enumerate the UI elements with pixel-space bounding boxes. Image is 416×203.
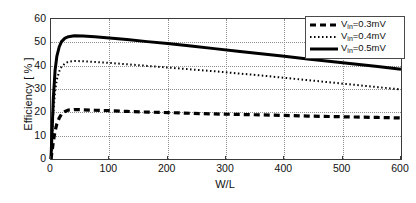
x-tick-label: 0 — [30, 162, 70, 174]
y-tick-label: 20 — [4, 105, 46, 117]
y-tick-label: 10 — [4, 129, 46, 141]
x-tick-mark — [342, 156, 343, 160]
x-tick-mark — [225, 156, 226, 160]
x-tick-label: 200 — [147, 162, 187, 174]
x-tick-mark — [167, 156, 168, 160]
y-tick-label: 30 — [4, 82, 46, 94]
legend-label: Vin=0.5mV — [341, 43, 386, 56]
efficiency-vs-wl-chart: Efficiency [ % ] 0102030405060 010020030… — [0, 0, 416, 203]
x-tick-mark — [400, 156, 401, 160]
legend-line-sample — [309, 20, 339, 30]
x-tick-label: 100 — [88, 162, 128, 174]
y-tick-label: 40 — [4, 59, 46, 71]
legend-line-sample — [309, 44, 339, 54]
x-tick-label: 400 — [263, 162, 303, 174]
x-tick-mark — [108, 156, 109, 160]
series-line-dashed — [51, 110, 401, 159]
legend-line-sample — [309, 32, 339, 42]
x-axis-label: W/L — [50, 178, 400, 190]
x-tick-mark — [50, 156, 51, 160]
y-tick-label: 60 — [4, 12, 46, 24]
series-line-dotted — [51, 61, 401, 159]
x-axis-tick-labels: 0100200300400500600 — [50, 160, 400, 176]
x-tick-label: 500 — [322, 162, 362, 174]
y-axis-tick-labels: 0102030405060 — [0, 18, 46, 158]
y-tick-label: 50 — [4, 35, 46, 47]
x-tick-label: 300 — [205, 162, 245, 174]
legend-item: Vin=0.5mV — [309, 43, 401, 55]
x-tick-label: 600 — [380, 162, 416, 174]
x-tick-mark — [283, 156, 284, 160]
legend: Vin=0.3mVVin=0.4mVVin=0.5mV — [305, 16, 405, 59]
